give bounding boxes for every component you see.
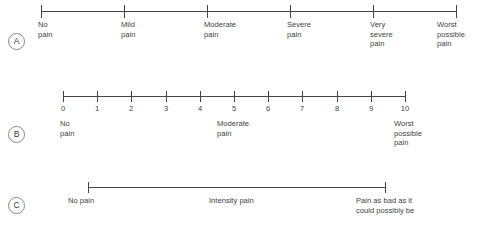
scale-a-tick-1 bbox=[124, 5, 125, 18]
scale-b-number-2: 2 bbox=[124, 104, 138, 113]
scale-b-tick-0 bbox=[63, 91, 64, 102]
scale-b-number-9: 9 bbox=[364, 104, 378, 113]
scale-a-tick-5 bbox=[456, 5, 457, 18]
scale-b-tick-5 bbox=[234, 91, 235, 102]
scale-b-tick-3 bbox=[166, 91, 167, 102]
scale-b-tick-7 bbox=[302, 91, 303, 102]
scale-a-label-1: Mild pain bbox=[121, 20, 135, 39]
scale-b-label-right: Worst possible pain bbox=[394, 119, 422, 148]
scale-b-tick-2 bbox=[131, 91, 132, 102]
scale-c-tick-left bbox=[88, 182, 89, 193]
scale-b-number-10: 10 bbox=[398, 104, 412, 113]
scale-b-tick-6 bbox=[268, 91, 269, 102]
scale-c-tick-right bbox=[385, 182, 386, 193]
scale-a-label-3: Severe pain bbox=[287, 20, 311, 39]
scale-a-label-5: Worst possible pain bbox=[437, 20, 465, 49]
scale-c-label-left: No pain bbox=[68, 196, 94, 206]
scale-a-axis-line bbox=[41, 11, 456, 12]
pain-scales-figure: A No pain Mild pain Moderate pain Severe… bbox=[0, 0, 480, 229]
scale-b-label-left: No pain bbox=[60, 119, 74, 138]
scale-b-number-6: 6 bbox=[261, 104, 275, 113]
scale-b-number-8: 8 bbox=[330, 104, 344, 113]
scale-b-tick-1 bbox=[97, 91, 98, 102]
scale-b-tick-8 bbox=[337, 91, 338, 102]
scale-a-label-2: Moderate pain bbox=[204, 20, 236, 39]
scale-a-tick-0 bbox=[41, 5, 42, 18]
scale-a-label-0: No pain bbox=[38, 20, 52, 39]
scale-a-label-4: Very severe pain bbox=[370, 20, 393, 49]
panel-badge-b: B bbox=[8, 126, 25, 143]
scale-b-label-middle: Moderate pain bbox=[217, 119, 249, 138]
scale-c-label-right: Pain as bad as it could possibly be bbox=[356, 196, 414, 215]
scale-b-tick-4 bbox=[200, 91, 201, 102]
panel-badge-c: C bbox=[8, 197, 25, 214]
scale-a-tick-4 bbox=[373, 5, 374, 18]
scale-b-number-1: 1 bbox=[90, 104, 104, 113]
scale-c-axis-line bbox=[88, 187, 385, 188]
panel-badge-a: A bbox=[8, 33, 25, 50]
scale-a-tick-3 bbox=[290, 5, 291, 18]
scale-a-tick-2 bbox=[207, 5, 208, 18]
scale-b-number-0: 0 bbox=[56, 104, 70, 113]
scale-b-number-4: 4 bbox=[193, 104, 207, 113]
scale-b-number-5: 5 bbox=[227, 104, 241, 113]
scale-b-tick-10 bbox=[405, 91, 406, 102]
scale-b-number-7: 7 bbox=[295, 104, 309, 113]
scale-b-number-3: 3 bbox=[159, 104, 173, 113]
scale-c-label-middle: Intensity pain bbox=[209, 196, 254, 206]
scale-b-tick-9 bbox=[371, 91, 372, 102]
